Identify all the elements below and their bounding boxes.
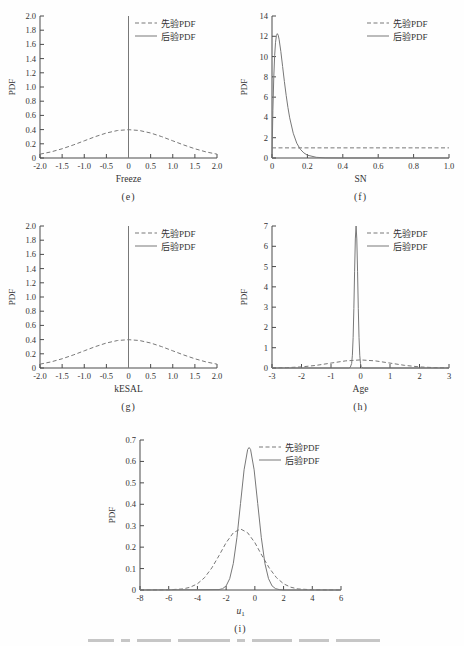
x-tick-label: 0 [358,371,362,381]
subplot-label: (h) [353,401,368,413]
x-tick-label: 1.5 [190,371,201,381]
y-tick-label: 0.8 [25,306,36,316]
x-tick-label: -6 [165,593,172,603]
y-tick-label: 0 [32,363,36,373]
y-tick-label: 0.6 [125,456,136,466]
legend-label: 后验PDF [285,455,320,466]
x-tick-label: 1.0 [167,371,178,381]
y-tick-label: 6 [264,241,268,251]
x-tick-label: -1 [327,371,334,381]
x-tick-label: 0 [253,593,257,603]
x-tick-label: 2 [281,593,285,603]
x-tick-label: 0.4 [337,161,348,171]
y-tick-label: 0 [132,585,136,595]
y-tick-label: 0.2 [125,542,136,552]
x-tick-label: -4 [194,593,202,603]
posterior-pdf-curve [272,34,449,158]
y-tick-label: 1.4 [25,54,36,64]
y-tick-label: 1.8 [25,25,36,35]
y-tick-label: 0.4 [125,499,136,509]
y-axis-label: PDF [239,289,249,306]
y-tick-label: 1.0 [25,82,36,92]
y-tick-label: 2.0 [25,11,36,21]
chart-svg-g: -2.0-1.5-1.0-0.500.51.01.52.000.20.40.60… [4,214,228,418]
x-tick-label: 0.5 [145,161,156,171]
clipped-caption-remnant [88,638,388,644]
chart-svg-i: -8-6-4-2024600.10.20.30.40.50.60.7PDFu1(… [104,428,352,640]
chart-svg-h: -3-2-1012301234567PDFAge(h)先验PDF后验PDF [236,214,460,418]
prior-pdf-curve [140,529,341,590]
x-tick-label: -0.5 [100,371,113,381]
x-axis-label: kESAL [114,384,143,394]
y-tick-label: 0.4 [25,335,36,345]
y-axis-label: PDF [7,79,17,96]
x-tick-label: 4 [310,593,315,603]
subplot-e-freeze: -2.0-1.5-1.0-0.500.51.01.52.000.20.40.60… [4,4,228,208]
subplot-g-kesal: -2.0-1.5-1.0-0.500.51.01.52.000.20.40.60… [4,214,228,418]
figure-page: -2.0-1.5-1.0-0.500.51.01.52.000.20.40.60… [0,0,464,646]
y-tick-label: 1.2 [25,278,36,288]
y-axis-label: PDF [107,507,117,524]
y-tick-label: 6 [264,92,268,102]
subplot-f-sn: 00.20.40.60.81.002468101214PDFSN(f)先验PDF… [236,4,460,208]
subplot-label: (e) [121,191,135,203]
x-tick-label: -2 [298,371,305,381]
y-tick-label: 12 [260,31,269,41]
legend-label: 后验PDF [161,31,196,42]
legend-label: 后验PDF [161,241,196,252]
subplot-h-age: -3-2-1012301234567PDFAge(h)先验PDF后验PDF [236,214,460,418]
y-tick-label: 14 [260,11,269,21]
y-tick-label: 5 [264,262,268,272]
y-tick-label: 0 [264,363,268,373]
y-tick-label: 0.8 [25,96,36,106]
y-tick-label: 0 [32,153,36,163]
subplot-label: (f) [354,191,367,203]
x-tick-label: 1.0 [167,161,178,171]
y-tick-label: 0 [264,153,268,163]
x-tick-label: 0.5 [145,371,156,381]
y-tick-label: 1.6 [25,249,36,259]
chart-svg-e: -2.0-1.5-1.0-0.500.51.01.52.000.20.40.60… [4,4,228,208]
x-tick-label: 0 [126,371,130,381]
y-tick-label: 0.6 [25,110,36,120]
x-axis-label: Age [353,384,369,394]
y-tick-label: 1 [264,343,268,353]
x-tick-label: -1.0 [78,371,91,381]
x-tick-label: -3 [268,371,275,381]
legend-label: 先验PDF [161,228,196,239]
x-tick-label: 3 [447,371,451,381]
y-tick-label: 0.1 [125,564,136,574]
subplot-label: (g) [121,401,136,413]
y-tick-label: 0.3 [125,521,136,531]
y-tick-label: 1.6 [25,39,36,49]
legend-label: 先验PDF [161,18,196,29]
x-tick-label: 0.6 [373,161,384,171]
y-tick-label: 1.2 [25,68,36,78]
legend-label: 后验PDF [393,31,428,42]
x-axis-label: u1 [236,606,245,618]
y-tick-label: 3 [264,302,268,312]
x-tick-label: 0 [126,161,130,171]
y-tick-label: 2.0 [25,221,36,231]
legend-label: 先验PDF [393,18,428,29]
x-tick-label: -0.5 [100,161,113,171]
x-tick-label: 1.5 [190,161,201,171]
y-tick-label: 4 [264,112,269,122]
x-tick-label: -1.5 [55,371,68,381]
y-tick-label: 1.8 [25,235,36,245]
x-tick-label: 6 [339,593,343,603]
x-axis-label: Freeze [116,174,141,184]
x-tick-label: -1.5 [55,161,68,171]
x-tick-label: 1.0 [444,161,455,171]
y-tick-label: 2 [264,322,268,332]
y-axis-label: PDF [239,79,249,96]
x-axis-label: SN [354,174,366,184]
x-tick-label: 0 [270,161,274,171]
y-tick-label: 2 [264,133,268,143]
x-tick-label: 2.0 [212,161,223,171]
y-tick-label: 1.0 [25,292,36,302]
y-tick-label: 0.4 [25,125,36,135]
x-tick-label: 1 [388,371,392,381]
subplot-label: (i) [234,623,246,635]
y-tick-label: 0.2 [25,349,36,359]
